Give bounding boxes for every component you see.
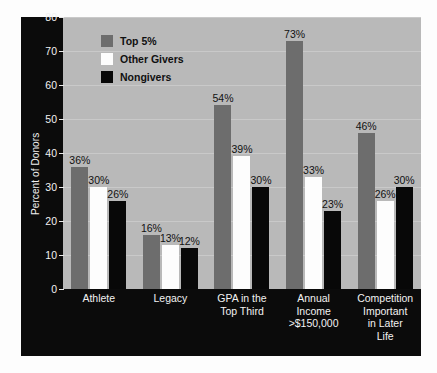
y-tick-label: 50 xyxy=(31,114,57,124)
bar-value-label: 12% xyxy=(179,235,200,247)
y-tick-label: 80 xyxy=(31,12,57,22)
bar-value-label: 39% xyxy=(231,143,252,155)
x-category-line: in Later xyxy=(343,317,427,330)
y-tick-label: 10 xyxy=(31,250,57,260)
bar: 46% xyxy=(358,133,375,289)
bar-value-label: 36% xyxy=(69,154,90,166)
x-category-label: CompetitionImportantin LaterLife xyxy=(343,292,427,342)
bar: 26% xyxy=(377,201,394,289)
y-tick-label: 20 xyxy=(31,216,57,226)
y-tick-mark xyxy=(59,221,64,222)
bar-value-label: 30% xyxy=(250,174,271,186)
bar-value-label: 46% xyxy=(356,120,377,132)
bar-value-label: 30% xyxy=(394,174,415,186)
bar-value-label: 23% xyxy=(322,198,343,210)
legend-item: Nongivers xyxy=(101,69,184,84)
bar: 16% xyxy=(143,235,160,289)
bar-value-label: 26% xyxy=(107,188,128,200)
x-category-line: Life xyxy=(343,330,427,343)
bar-value-label: 54% xyxy=(212,92,233,104)
bar: 54% xyxy=(214,105,231,289)
legend-item: Other Givers xyxy=(101,51,184,66)
bar: 39% xyxy=(233,156,250,289)
bar-chart: 36%30%26%16%13%12%54%39%30%73%33%23%46%2… xyxy=(0,0,437,373)
bar: 26% xyxy=(109,201,126,289)
y-tick-mark xyxy=(59,17,64,18)
legend-label: Nongivers xyxy=(120,71,171,83)
bar-value-label: 16% xyxy=(141,222,162,234)
bar: 33% xyxy=(305,177,322,289)
legend-swatch-icon xyxy=(101,71,113,83)
y-tick-mark xyxy=(59,153,64,154)
x-category-line: Important xyxy=(343,305,427,318)
y-tick-label: 70 xyxy=(31,46,57,56)
x-category-line: Competition xyxy=(343,292,427,305)
bar: 30% xyxy=(396,187,413,289)
bar: 30% xyxy=(252,187,269,289)
bar-value-label: 33% xyxy=(303,164,324,176)
y-tick-mark xyxy=(59,255,64,256)
legend-label: Top 5% xyxy=(120,35,157,47)
bar-group: 46%26%30% xyxy=(349,17,421,289)
bar: 30% xyxy=(90,187,107,289)
legend-item: Top 5% xyxy=(101,33,184,48)
y-axis-title: Percent of Donors xyxy=(30,133,41,215)
y-tick-label: 60 xyxy=(31,80,57,90)
bar-group: 73%33%23% xyxy=(278,17,350,289)
legend-swatch-icon xyxy=(101,53,113,65)
bar-value-label: 13% xyxy=(160,232,181,244)
y-tick-label: 0 xyxy=(31,284,57,294)
bar: 73% xyxy=(286,41,303,289)
y-tick-mark xyxy=(59,85,64,86)
y-tick-mark xyxy=(59,119,64,120)
y-tick-mark xyxy=(59,51,64,52)
bar: 23% xyxy=(324,211,341,289)
y-tick-mark xyxy=(59,289,64,290)
bar-value-label: 30% xyxy=(88,174,109,186)
legend-label: Other Givers xyxy=(120,53,184,65)
legend-swatch-icon xyxy=(101,35,113,47)
bar: 13% xyxy=(162,245,179,289)
bar-value-label: 26% xyxy=(375,188,396,200)
bar-group: 54%39%30% xyxy=(206,17,278,289)
legend: Top 5%Other GiversNongivers xyxy=(101,33,184,87)
bar-value-label: 73% xyxy=(284,28,305,40)
y-tick-mark xyxy=(59,187,64,188)
bar: 12% xyxy=(181,248,198,289)
bar: 36% xyxy=(71,167,88,289)
